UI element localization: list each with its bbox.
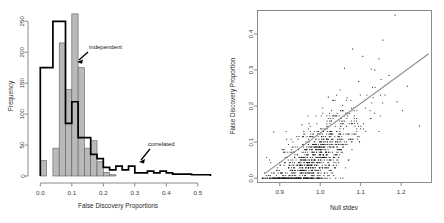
scatter-point bbox=[309, 160, 310, 161]
scatter-point bbox=[352, 139, 353, 140]
scatter-point bbox=[314, 141, 315, 142]
scatter-point bbox=[302, 152, 303, 153]
scatter-point bbox=[348, 134, 349, 135]
scatter-point bbox=[339, 131, 340, 132]
scatter-point bbox=[339, 115, 340, 116]
scatter-point bbox=[312, 170, 313, 171]
scatter-point bbox=[323, 139, 324, 140]
scatter-point bbox=[354, 123, 355, 124]
scatter-point bbox=[292, 141, 293, 142]
scatter-point bbox=[310, 131, 311, 132]
scatter-point bbox=[352, 141, 353, 142]
scatter-point bbox=[319, 162, 320, 163]
scatter-point bbox=[264, 178, 265, 179]
scatter-point bbox=[303, 170, 304, 171]
histogram-x-tick-label: 0.0 bbox=[36, 189, 45, 196]
scatter-point bbox=[321, 136, 322, 137]
scatter-point bbox=[372, 87, 373, 88]
scatter-point bbox=[287, 173, 288, 174]
scatter-point bbox=[341, 121, 342, 122]
scatter-point bbox=[330, 141, 331, 142]
scatter-point bbox=[357, 139, 358, 140]
scatter-point bbox=[325, 141, 326, 142]
scatter-point bbox=[289, 178, 290, 179]
scatter-point bbox=[312, 178, 313, 179]
scatter-point bbox=[324, 157, 325, 158]
scatter-point bbox=[328, 167, 329, 168]
scatter-point bbox=[343, 144, 344, 145]
scatter-point bbox=[337, 152, 338, 153]
scatter-point bbox=[354, 134, 355, 135]
histogram-bar bbox=[66, 89, 72, 176]
scatter-point bbox=[331, 173, 332, 174]
scatter-point bbox=[324, 160, 325, 161]
scatter-point bbox=[266, 157, 267, 158]
scatter-point bbox=[324, 141, 325, 142]
scatter-point bbox=[335, 162, 336, 163]
scatter-point bbox=[321, 162, 322, 163]
scatter-point bbox=[316, 152, 317, 153]
scatter-point bbox=[342, 147, 343, 148]
scatter-point bbox=[335, 115, 336, 116]
scatter-point bbox=[305, 157, 306, 158]
scatter-point bbox=[327, 141, 328, 142]
scatter-point bbox=[330, 160, 331, 161]
scatter-point bbox=[339, 136, 340, 137]
scatter-point bbox=[305, 178, 306, 179]
scatter-point bbox=[374, 70, 375, 71]
scatter-point bbox=[271, 173, 272, 174]
scatter-point bbox=[293, 167, 294, 168]
scatter-point bbox=[326, 139, 327, 140]
scatter-point bbox=[340, 110, 341, 111]
scatter-point bbox=[351, 141, 352, 142]
scatter-point bbox=[317, 157, 318, 158]
scatter-point bbox=[324, 147, 325, 148]
scatter-point bbox=[321, 144, 322, 145]
scatter-point bbox=[331, 110, 332, 111]
scatter-point bbox=[321, 152, 322, 153]
scatter-point bbox=[322, 167, 323, 168]
scatter-point bbox=[325, 152, 326, 153]
scatter-point bbox=[288, 167, 289, 168]
scatter-point bbox=[342, 152, 343, 153]
scatter-point bbox=[312, 175, 313, 176]
scatter-point bbox=[350, 139, 351, 140]
scatter-point bbox=[340, 89, 341, 90]
scatter-point bbox=[327, 162, 328, 163]
scatter-point bbox=[342, 110, 343, 111]
scatter-point bbox=[334, 136, 335, 137]
scatter-point bbox=[332, 144, 333, 145]
scatter-point bbox=[320, 167, 321, 168]
scatter-point bbox=[365, 108, 366, 109]
scatter-point bbox=[319, 147, 320, 148]
scatter-point bbox=[330, 178, 331, 179]
histogram-bar bbox=[84, 148, 90, 176]
scatter-point bbox=[327, 121, 328, 122]
scatter-point bbox=[308, 139, 309, 140]
scatter-point bbox=[311, 175, 312, 176]
scatter-point bbox=[345, 167, 346, 168]
scatter-point bbox=[318, 139, 319, 140]
scatter-point bbox=[339, 121, 340, 122]
histogram-bar bbox=[97, 162, 103, 176]
histogram-panel: 050100150200250 0.00.10.20.30.40.5 Frequ… bbox=[0, 0, 222, 223]
scatter-point bbox=[352, 123, 353, 124]
scatter-point bbox=[311, 165, 312, 166]
scatter-point bbox=[329, 175, 330, 176]
scatter-point bbox=[318, 136, 319, 137]
scatter-point bbox=[319, 152, 320, 153]
scatter-point bbox=[317, 147, 318, 148]
annotation-correlated-arrow-line bbox=[141, 149, 150, 160]
scatter-point bbox=[299, 162, 300, 163]
annotation-correlated-label: correlated bbox=[148, 141, 175, 147]
scatter-point bbox=[311, 160, 312, 161]
scatter-point bbox=[283, 175, 284, 176]
scatter-point bbox=[283, 149, 284, 150]
scatter-point bbox=[299, 175, 300, 176]
scatter-point bbox=[332, 173, 333, 174]
scatter-point bbox=[382, 102, 383, 103]
scatter-point bbox=[279, 170, 280, 171]
scatter-point bbox=[290, 162, 291, 163]
scatter-point bbox=[340, 141, 341, 142]
scatter-point bbox=[350, 100, 351, 101]
